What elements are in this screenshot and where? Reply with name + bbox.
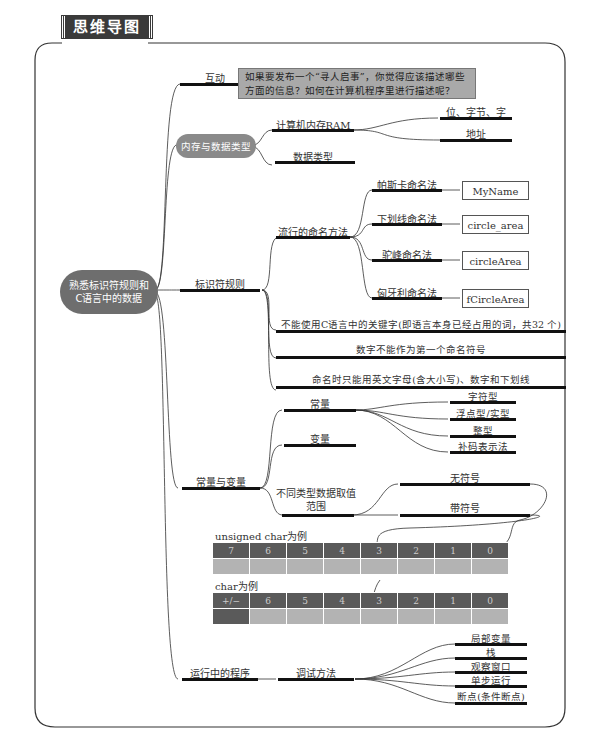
memory-node[interactable]: 内存与数据类型 [176, 134, 256, 158]
root-node[interactable]: 熟悉标识符规则和 C语言中的数据 [60, 270, 158, 314]
variable-bar [284, 444, 356, 447]
sign-value-cell [213, 609, 250, 625]
bit-cell: 2 [398, 543, 435, 559]
bit-cell: 4 [324, 593, 361, 609]
underscore-example: circle_area [462, 215, 529, 234]
constant-bar [284, 409, 356, 412]
signed-bar [400, 514, 530, 517]
twos-complement-bar [450, 451, 516, 454]
bit-cell: 5 [287, 543, 324, 559]
value-cell [287, 559, 324, 575]
value-cell [361, 609, 398, 625]
branch-identifier-bar [180, 289, 260, 292]
unsigned-char-caption: unsigned char为例 [215, 528, 307, 543]
datatype-bar [275, 161, 355, 164]
value-cell [324, 609, 361, 625]
pascal-bar [372, 189, 442, 192]
range-bar [282, 514, 354, 517]
int-type-bar [450, 435, 516, 438]
value-cell [472, 609, 509, 625]
value-cell [472, 559, 509, 575]
value-cell [435, 559, 472, 575]
pascal-example: MyName [462, 181, 529, 200]
interaction-question-box: 如果要发布一个“寻人启事”，你觉得应该描述哪些方面的信息？如何在计算机程序里进行… [238, 68, 476, 99]
debug-step-run-bar [455, 685, 527, 688]
memory-label: 内存与数据类型 [181, 139, 251, 153]
rule-chars-bar [276, 386, 566, 389]
root-label-line1: 熟悉标识符规则和 [69, 279, 149, 292]
bit-cell: 3 [361, 543, 398, 559]
signed-label[interactable]: 带符号 [400, 500, 530, 515]
rule-chars-label[interactable]: 命名时只能用英文字母(含大小写)、数字和下划线 [276, 372, 566, 386]
signed-char-caption: char为例 [215, 578, 258, 593]
bit-cell: 5 [287, 593, 324, 609]
value-cell [250, 559, 287, 575]
unsigned-char-bit-table: 7 6 5 4 3 2 1 0 [212, 542, 509, 575]
bit-cell: 7 [213, 543, 250, 559]
value-cell [361, 559, 398, 575]
debug-breakpoint-bar [455, 702, 527, 705]
address-bar [440, 139, 512, 142]
root-label-line2: C语言中的数据 [76, 292, 143, 305]
value-cell [398, 559, 435, 575]
debug-breakpoint-label[interactable]: 断点(条件断点) [455, 689, 527, 703]
value-cell [435, 609, 472, 625]
range-label-line2: 范围 [276, 500, 356, 513]
rule-keywords-label[interactable]: 不能使用C语言中的关键字(即语言本身已经占用的词，共32 个) [276, 317, 566, 331]
bit-cell: 4 [324, 543, 361, 559]
bit-cell: 0 [472, 543, 509, 559]
branch-constvar-bar [182, 487, 260, 490]
range-label[interactable]: 不同类型数据取值 范围 [276, 487, 356, 513]
bit-cell: 6 [250, 543, 287, 559]
camel-example: circleArea [462, 251, 529, 270]
unsigned-bar [400, 483, 530, 486]
char-type-bar [450, 401, 516, 404]
value-cell [398, 609, 435, 625]
hungarian-example: fCircleArea [462, 289, 529, 308]
value-cell [213, 559, 250, 575]
signed-char-bit-table: +/− 6 5 4 3 2 1 0 [212, 592, 509, 625]
rule-digit-first-bar [276, 356, 566, 359]
bit-cell: 6 [250, 593, 287, 609]
float-type-bar [450, 418, 516, 421]
branch-runtime-bar [182, 678, 258, 681]
naming-methods-bar [276, 236, 350, 239]
rule-digit-first-label[interactable]: 数字不能作为第一个命名符号 [276, 342, 566, 356]
camel-bar [372, 259, 442, 262]
mindmap-title-badge: 思维导图 [62, 16, 152, 38]
value-cell [287, 609, 324, 625]
range-label-line1: 不同类型数据取值 [276, 487, 356, 500]
hungarian-bar [372, 297, 442, 300]
bit-cell: 0 [472, 593, 509, 609]
debug-methods-bar [278, 678, 354, 681]
sign-bit-cell: +/− [213, 593, 250, 609]
bit-cell: 1 [435, 593, 472, 609]
bit-cell: 3 [361, 593, 398, 609]
value-cell [250, 609, 287, 625]
value-cell [324, 559, 361, 575]
bit-cell: 2 [398, 593, 435, 609]
bit-cell: 1 [435, 543, 472, 559]
ram-bar [272, 129, 354, 132]
rule-keywords-bar [276, 330, 566, 333]
underscore-bar [372, 223, 442, 226]
bit-byte-word-bar [440, 117, 512, 120]
